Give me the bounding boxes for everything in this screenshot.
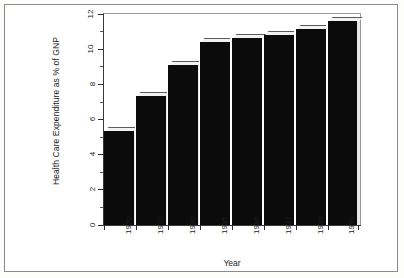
bar-slot: [296, 13, 328, 225]
x-tick-label: 1988: [316, 216, 325, 234]
bar-separator: [262, 35, 264, 225]
y-tick-mark: [98, 49, 103, 50]
y-tick-label: 12: [86, 9, 95, 18]
bar-top-face: [329, 17, 362, 21]
x-tick-label: 1980: [188, 216, 197, 234]
bar-slot: [200, 13, 232, 225]
bar[interactable]: [200, 42, 232, 225]
y-tick-label: 10: [86, 44, 95, 53]
bar-separator: [230, 38, 232, 224]
bar[interactable]: [104, 131, 136, 224]
x-tick-label: 1989: [347, 216, 356, 234]
bar[interactable]: [168, 65, 200, 225]
bar-separator: [326, 21, 328, 225]
x-tick-label: 1960: [124, 216, 133, 234]
bar-series: [104, 13, 360, 225]
bar[interactable]: [328, 21, 360, 225]
x-tick-label: 1985: [220, 216, 229, 234]
y-tick-label: 2: [88, 187, 97, 191]
y-tick-label: 8: [88, 82, 97, 86]
y-tick-mark: [98, 154, 103, 155]
bar[interactable]: [264, 35, 296, 225]
bar[interactable]: [232, 38, 264, 224]
bar-separator: [135, 96, 137, 224]
figure-container: Health Care Expenditure as % of GNP Year…: [0, 0, 404, 278]
y-tick-mark: [98, 189, 103, 190]
y-tick-label: 6: [88, 117, 97, 121]
y-tick-minor: [100, 102, 103, 103]
bar-slot: [136, 13, 168, 225]
bar-separator: [294, 29, 296, 224]
x-tick-label: 1986: [252, 216, 261, 234]
bar-separator: [167, 65, 169, 225]
y-tick-minor: [100, 31, 103, 32]
bar-side-face: [357, 21, 360, 225]
bar-slot: [264, 13, 296, 225]
y-tick-minor: [100, 137, 103, 138]
bar-slot: [232, 13, 264, 225]
bar[interactable]: [296, 29, 328, 224]
y-tick-mark: [98, 84, 103, 85]
y-tick-mark: [98, 119, 103, 120]
x-axis-title: Year: [103, 258, 361, 268]
y-axis-title: Health Care Expenditure as % of GNP: [51, 11, 61, 211]
x-tick-label: 1970: [156, 216, 165, 234]
y-tick-mark: [98, 14, 103, 15]
bar-slot: [104, 13, 136, 225]
bar-slot: [168, 13, 200, 225]
x-axis-tick-labels: 19601970198019851986198719881989: [103, 228, 361, 258]
y-tick-label: 4: [88, 152, 97, 156]
y-tick-minor: [100, 172, 103, 173]
y-tick-mark: [98, 225, 103, 226]
x-tick-label: 1987: [284, 216, 293, 234]
y-tick-minor: [100, 207, 103, 208]
y-tick-label: 0: [88, 222, 97, 226]
plot-area: 024681012: [103, 13, 361, 226]
bar[interactable]: [136, 96, 168, 224]
bar-separator: [199, 42, 201, 225]
y-tick-minor: [100, 66, 103, 67]
bar-slot: [328, 13, 360, 225]
